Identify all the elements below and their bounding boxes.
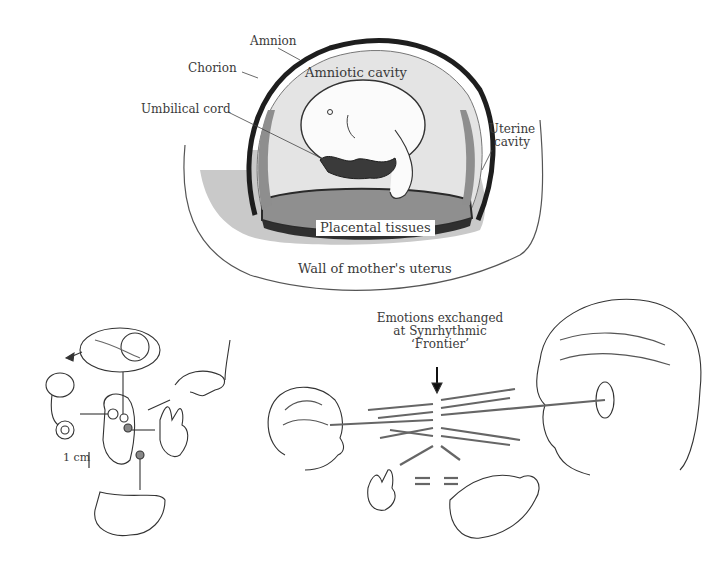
label-umbilical-cord: Umbilical cord	[141, 103, 231, 116]
label-wall-of-uterus: Wall of mother's uterus	[298, 262, 452, 276]
embryo-hand-drawing	[160, 407, 188, 457]
label-scale-1cm: 1 cm	[63, 452, 90, 464]
label-emotions-exchanged: Emotions exchanged at Synrhythmic ‘Front…	[370, 312, 510, 352]
label-uterine-cavity: Uterine cavity	[484, 123, 540, 149]
nose-drawing	[175, 340, 230, 396]
amnion-leader	[278, 48, 300, 60]
caption-line-3: ‘Frontier’	[370, 338, 510, 351]
label-amnion: Amnion	[250, 35, 297, 48]
embryo-foot-drawing	[95, 492, 165, 536]
diagram-canvas	[0, 0, 722, 569]
mother-head-drawing	[537, 299, 701, 475]
sense-organs-diagram	[46, 328, 230, 536]
label-chorion: Chorion	[188, 62, 237, 75]
label-placental-tissues: Placental tissues	[316, 220, 435, 236]
label-uterine-cavity-line2: cavity	[484, 136, 540, 149]
infant-head-drawing	[268, 387, 343, 470]
inner-ear-drawing	[46, 373, 74, 439]
chorion-leader	[242, 72, 258, 78]
label-amniotic-cavity: Amniotic cavity	[305, 66, 407, 80]
eye-drawing	[66, 328, 160, 372]
emotion-exchange-arrows	[330, 389, 605, 484]
mother-hand-drawing	[450, 475, 539, 538]
infant-hand-drawing	[368, 470, 395, 511]
